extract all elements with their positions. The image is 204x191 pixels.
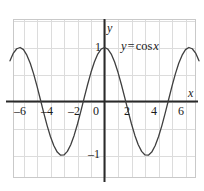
x-tick-label-4: 4 <box>151 105 157 117</box>
x-tick-label-2: 2 <box>124 105 130 117</box>
x-tick-label-6: 6 <box>178 105 184 117</box>
y-axis-name: y <box>107 22 112 34</box>
equation-lhs: y <box>121 39 127 53</box>
y-tick-label-1: 1 <box>95 41 101 53</box>
x-tick-label-neg6: –6 <box>14 105 26 117</box>
plot-canvas <box>0 0 204 191</box>
curve-equation-label: y=cos x <box>121 40 159 53</box>
y-tick-label-neg1: –1 <box>88 148 100 160</box>
x-axis-name: x <box>188 87 193 99</box>
equation-function: cos <box>136 39 153 53</box>
cosine-graph-figure: y=cos x y x 1 –1 –6 –4 –2 0 2 4 6 <box>0 0 204 191</box>
x-tick-label-neg4: –4 <box>41 105 53 117</box>
equation-operator: = <box>127 39 136 53</box>
equation-variable: x <box>153 39 159 53</box>
x-tick-label-zero: 0 <box>93 105 99 117</box>
x-tick-label-neg2: –2 <box>68 105 80 117</box>
